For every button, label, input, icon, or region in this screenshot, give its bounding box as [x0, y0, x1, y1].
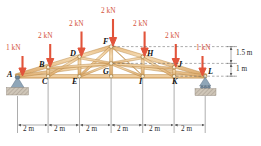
dim-label-bay-2: 2 m: [54, 126, 65, 133]
node-label-H: H: [147, 50, 153, 58]
load-arrow-D: [78, 32, 85, 57]
joint-E: [78, 75, 81, 78]
node-label-B: B: [39, 61, 44, 69]
truss-diagram-canvas: [0, 0, 261, 146]
load-label-B: 2 kN: [38, 32, 53, 39]
node-label-F: F: [103, 38, 108, 46]
truss-diagram: 1 kN 2 kN 2 kN 2 kN 2 kN 2 kN 1 kN A B C…: [0, 0, 261, 146]
node-label-L: L: [208, 68, 213, 76]
load-label-A: 1 kN: [6, 44, 21, 51]
load-label-J: 2 kN: [165, 32, 180, 39]
load-label-L: 1 kN: [196, 44, 211, 51]
joint-G: [109, 62, 113, 66]
load-label-H: 2 kN: [133, 20, 148, 27]
member-vertical-F-G: [110, 46, 113, 77]
load-label-F: 2 kN: [101, 7, 116, 14]
load-label-D: 2 kN: [69, 20, 84, 27]
node-label-I: I: [139, 78, 142, 86]
joint-G2: [109, 75, 112, 78]
node-label-E: E: [72, 78, 77, 86]
dim-label-bay-4: 2 m: [117, 126, 128, 133]
node-label-J: J: [178, 61, 182, 69]
dim-label-bay-6: 2 m: [181, 126, 192, 133]
node-label-G: G: [103, 68, 109, 76]
dim-label-height-lower: 1 m: [236, 66, 247, 73]
dim-label-bay-1: 2 m: [23, 126, 34, 133]
load-arrow-F: [109, 19, 116, 46]
node-label-C: C: [42, 78, 47, 86]
dim-label-bay-5: 2 m: [149, 126, 160, 133]
dim-label-bay-3: 2 m: [86, 126, 97, 133]
node-label-A: A: [7, 71, 12, 79]
support-rocker-L: [195, 77, 216, 95]
node-label-K: K: [172, 78, 177, 86]
dim-label-height-upper: 1.5 m: [236, 50, 252, 57]
node-label-D: D: [70, 50, 76, 58]
